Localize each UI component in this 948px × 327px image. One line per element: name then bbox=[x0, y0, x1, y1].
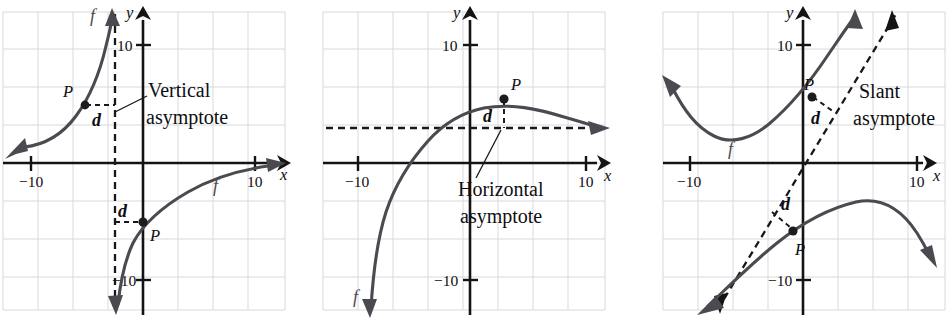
distance-label: d bbox=[483, 106, 493, 126]
panel-3-plot: −10 10 x 10 −10 y bbox=[632, 0, 948, 327]
annotation-leader-line bbox=[476, 130, 501, 178]
function-label: f bbox=[353, 287, 361, 307]
curve-f-down-arrow bbox=[108, 295, 123, 315]
function-label-upper: f bbox=[90, 6, 98, 26]
point-p bbox=[499, 94, 508, 103]
y-axis-label: y bbox=[124, 3, 134, 22]
point-p-upper-label: P bbox=[62, 82, 73, 101]
curve-f-left-arrow bbox=[5, 138, 28, 159]
slant-asymptote-up-arrow bbox=[885, 10, 899, 31]
point-p-upper-label: P bbox=[803, 75, 814, 94]
x-axis-label: x bbox=[603, 166, 612, 185]
annotation-line-2: asymptote bbox=[146, 106, 228, 129]
y-tick-label-neg10: −10 bbox=[768, 272, 792, 289]
annotation-line-2: asymptote bbox=[460, 205, 542, 228]
function-label: f bbox=[728, 139, 736, 159]
x-tick-label-10: 10 bbox=[909, 173, 925, 190]
panel-vertical-asymptote: −10 10 x 10 −10 y bbox=[0, 0, 316, 327]
slant-asymptote-line bbox=[718, 14, 896, 309]
point-p-upper bbox=[81, 101, 90, 110]
point-p-lower bbox=[138, 217, 147, 226]
curve-f-up-arrow bbox=[105, 8, 120, 26]
point-p-lower bbox=[788, 226, 797, 235]
curve-f-lower-branch bbox=[118, 166, 268, 304]
annotation-line-1: Slant bbox=[859, 80, 901, 102]
distance-label-upper: d bbox=[811, 108, 821, 128]
curve-f-upper-branch bbox=[673, 19, 853, 140]
y-tick-label-10: 10 bbox=[117, 37, 133, 54]
x-axis-label: x bbox=[279, 165, 288, 184]
x-tick-label-10: 10 bbox=[578, 173, 594, 190]
annotation-line-1: Horizontal bbox=[458, 178, 544, 200]
y-axis bbox=[135, 6, 151, 315]
asymptote-figure: −10 10 x 10 −10 y bbox=[0, 0, 948, 327]
annotation-line-2: asymptote bbox=[853, 107, 935, 130]
point-p-lower-label: P bbox=[149, 226, 160, 245]
distance-label-lower: d bbox=[118, 201, 128, 221]
annotation-line-1: Vertical bbox=[148, 79, 211, 101]
panel-horizontal-asymptote: −10 10 x 10 −10 y P d bbox=[316, 0, 632, 327]
y-axis-label: y bbox=[451, 3, 461, 22]
y-tick-label-10: 10 bbox=[442, 37, 458, 54]
curve-f-right-arrow bbox=[588, 121, 610, 135]
grid bbox=[323, 12, 605, 310]
distance-label-upper: d bbox=[92, 110, 102, 130]
distance-segment-lower bbox=[772, 212, 791, 228]
curve-f-down-arrow bbox=[362, 299, 377, 318]
y-axis-label: y bbox=[784, 3, 794, 22]
x-tick-label-neg10: −10 bbox=[19, 173, 43, 190]
point-p-lower-label: P bbox=[794, 240, 805, 259]
panel-slant-asymptote: −10 10 x 10 −10 y bbox=[632, 0, 948, 327]
y-tick-label-neg10: −10 bbox=[434, 272, 458, 289]
x-tick-label-10: 10 bbox=[247, 173, 263, 190]
curve-f-upper-left-arrow bbox=[662, 75, 681, 97]
distance-label-lower: d bbox=[781, 194, 791, 214]
point-p-label: P bbox=[510, 75, 521, 94]
y-axis bbox=[462, 6, 478, 315]
x-tick-label-neg10: −10 bbox=[677, 173, 701, 190]
panel-2-plot: −10 10 x 10 −10 y P d bbox=[316, 0, 632, 327]
panel-1-plot: −10 10 x 10 −10 y bbox=[0, 0, 316, 327]
curve-f-lower-branch bbox=[708, 201, 931, 306]
y-tick-label-10: 10 bbox=[777, 37, 793, 54]
x-axis bbox=[663, 155, 937, 171]
x-axis-label: x bbox=[932, 166, 941, 185]
x-tick-label-neg10: −10 bbox=[345, 173, 369, 190]
curve-f-lower-right-arrow bbox=[920, 245, 937, 268]
